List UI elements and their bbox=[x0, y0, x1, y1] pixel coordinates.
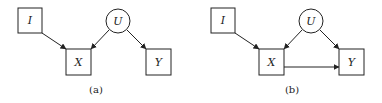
panel-a: I U X Y (a) bbox=[18, 8, 171, 95]
node-x-label: X bbox=[74, 56, 84, 69]
node-i-label: I bbox=[220, 14, 226, 27]
node-y: Y bbox=[339, 49, 364, 75]
node-i: I bbox=[211, 8, 235, 33]
edge-u-to-y bbox=[127, 30, 146, 49]
edge-u-to-x bbox=[91, 30, 109, 49]
caption-b: (b) bbox=[285, 84, 299, 95]
causal-diagram: I U X Y (a) I U X bbox=[0, 0, 382, 103]
edge-u-to-x bbox=[284, 30, 302, 49]
edge-u-to-y bbox=[320, 30, 339, 49]
panel-b: I U X Y (b) bbox=[211, 8, 364, 95]
node-u-label: U bbox=[306, 15, 316, 28]
edge-i-to-x bbox=[42, 33, 66, 49]
node-x-label: X bbox=[267, 56, 277, 69]
node-i-label: I bbox=[27, 14, 33, 27]
node-x: X bbox=[66, 49, 91, 75]
node-y: Y bbox=[146, 49, 171, 75]
node-u: U bbox=[299, 9, 323, 33]
node-u: U bbox=[106, 9, 130, 33]
node-i: I bbox=[18, 8, 42, 33]
caption-a: (a) bbox=[89, 84, 103, 95]
edge-i-to-x bbox=[235, 33, 259, 49]
node-u-label: U bbox=[113, 15, 123, 28]
node-x: X bbox=[259, 49, 284, 75]
